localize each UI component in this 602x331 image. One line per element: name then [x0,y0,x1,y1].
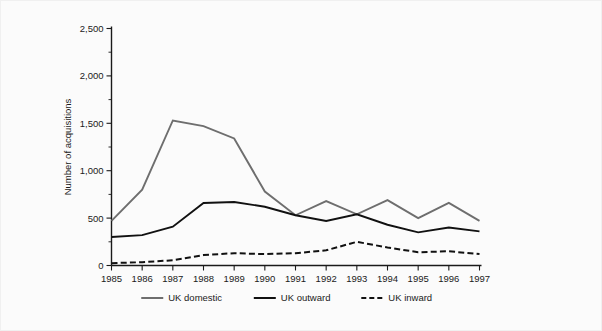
x-tick-label: 1987 [162,273,183,284]
x-tick-label: 1995 [408,273,429,284]
y-axis-label: Number of acquisitions [62,98,73,195]
series-line-uk-outward [112,202,480,237]
x-axis: 1985198619871988198919901991199219931994… [101,266,490,285]
y-tick-label: 0 [98,260,103,271]
series-line-uk-inward [112,242,480,263]
x-tick-label: 1991 [285,273,306,284]
chart-plot-area: 05001,0001,5002,0002,500 198519861987198… [1,1,602,331]
line-chart: 05001,0001,5002,0002,500 198519861987198… [1,1,602,331]
x-tick-label: 1997 [469,273,490,284]
x-tick-label: 1994 [377,273,398,284]
y-tick-label: 2,000 [80,70,104,81]
x-tick-label: 1986 [132,273,153,284]
x-tick-label: 1988 [193,273,214,284]
x-tick-label: 1992 [316,273,337,284]
y-axis: 05001,0001,5002,0002,500 [80,23,112,271]
x-tick-label: 1990 [254,273,275,284]
x-tick-label: 1989 [224,273,245,284]
y-tick-label: 1,500 [80,118,104,129]
x-tick-label: 1993 [346,273,367,284]
series-line-uk-domestic [112,120,480,220]
chart-legend: UK domesticUK outwardUK inward [141,292,432,303]
series-lines [112,120,480,263]
y-tick-label: 500 [88,213,104,224]
x-tick-label: 1985 [101,273,122,284]
figure-container: 05001,0001,5002,0002,500 198519861987198… [0,0,602,331]
legend-label-uk-outward: UK outward [281,292,331,303]
x-tick-label: 1996 [438,273,459,284]
y-axis-title: Number of acquisitions [62,98,73,195]
y-tick-label: 2,500 [80,23,104,34]
y-tick-label: 1,000 [80,165,104,176]
legend-label-uk-domestic: UK domestic [168,292,222,303]
legend-label-uk-inward: UK inward [388,292,432,303]
